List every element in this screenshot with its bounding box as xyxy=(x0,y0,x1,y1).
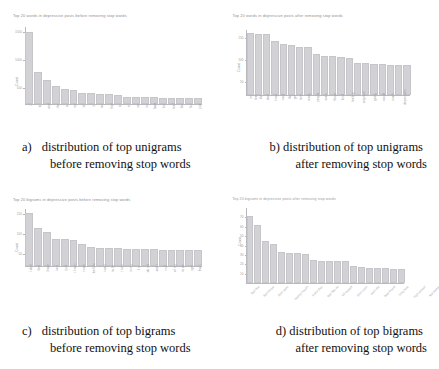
x-tick-label: going xyxy=(369,97,377,101)
y-tick-label: 150 xyxy=(232,36,244,40)
bar xyxy=(247,33,254,95)
bar xyxy=(61,239,69,266)
x-tick-label: like xyxy=(176,106,184,110)
chart-title: Top 20 bigrams in depressive posts after… xyxy=(233,197,336,201)
caption-marker: c) xyxy=(22,323,32,340)
x-tick-label: so xyxy=(132,106,140,110)
chart-title: Top 20 words in depressive posts before … xyxy=(13,13,127,18)
x-tick-label: to xyxy=(34,106,42,110)
x-tick-labels: feel likedont knowdont wantmental health… xyxy=(247,285,405,289)
bar xyxy=(278,252,285,283)
bar xyxy=(280,44,287,95)
bar xyxy=(43,232,51,266)
x-tick-label: to do xyxy=(177,268,185,272)
caption-marker: d) xyxy=(276,324,286,338)
caption-text-line1: distribution of top bigrams xyxy=(42,323,176,340)
x-tick-label: a xyxy=(61,106,69,110)
bar xyxy=(262,241,269,283)
x-tick-label: anymore xyxy=(356,97,368,101)
caption-marker: a) xyxy=(22,139,32,156)
x-tick-label: me xyxy=(96,106,104,110)
x-tick-label: things xyxy=(329,97,337,101)
bar xyxy=(70,240,78,266)
bar xyxy=(270,244,277,283)
bar xyxy=(247,216,254,284)
y-axis-label: Count xyxy=(237,63,241,72)
bar xyxy=(52,86,60,104)
caption-text-line2: after removing stop words xyxy=(295,340,433,357)
bar xyxy=(379,64,386,95)
bar xyxy=(310,260,317,283)
bar xyxy=(25,32,33,104)
x-tick-label: i was xyxy=(116,268,124,272)
x-tick-label: dont xyxy=(263,97,269,101)
y-axis-label: Count xyxy=(15,243,19,252)
x-tick-label: i know xyxy=(69,268,78,272)
x-tick-label: like xyxy=(257,97,262,101)
x-tick-label: mental health xyxy=(288,285,307,289)
x-tick-label: would xyxy=(378,97,386,101)
bar xyxy=(159,250,167,266)
caption-marker: b) xyxy=(270,140,280,154)
caption-text-line2: after removing stop words xyxy=(295,156,433,173)
bar xyxy=(318,261,325,284)
bar xyxy=(382,268,389,283)
bar xyxy=(326,261,333,284)
bar xyxy=(61,89,69,104)
chart-panel-unigrams-after: Top 20 words in depressive posts after r… xyxy=(220,0,439,139)
bar xyxy=(52,239,60,266)
x-tick-label: want xyxy=(278,97,285,101)
x-tick-label: it xyxy=(87,106,95,110)
bar xyxy=(321,56,328,95)
bar xyxy=(105,248,113,266)
x-tick-label: that i xyxy=(194,268,202,272)
bars-container xyxy=(25,27,202,104)
x-tick-label: feeling xyxy=(346,97,355,101)
bar xyxy=(334,261,341,283)
y-tick-label: 30 xyxy=(232,253,244,257)
bar xyxy=(70,90,78,104)
x-tick-label: think xyxy=(338,97,345,101)
chart-panel-bigrams-after: Top 20 bigrams in depressive posts after… xyxy=(220,184,439,323)
y-tick-label: 500 xyxy=(10,86,22,90)
x-tick-label: i get xyxy=(186,268,194,272)
x-tick-label: of my xyxy=(169,268,177,272)
x-tick-label: in my xyxy=(125,268,133,272)
bar xyxy=(185,98,193,104)
x-tick-label: do not xyxy=(142,268,151,272)
chart-panel-bigrams-before: Top 20 bigrams in depressive posts befor… xyxy=(0,184,220,323)
bars-container xyxy=(247,208,405,283)
bar xyxy=(370,64,377,95)
caption-text-line1: distribution of top unigrams xyxy=(283,140,423,154)
caption-a: a) distribution of top unigrams before r… xyxy=(0,139,220,184)
x-tick-label: i feel xyxy=(34,268,42,272)
y-tick-label: 60 xyxy=(232,225,244,229)
x-tick-labels: i donti feeli havei ami justi knowi want… xyxy=(25,268,202,272)
x-tick-label: i want xyxy=(78,268,86,272)
caption-text-line2: before removing stop words xyxy=(6,156,214,173)
bar xyxy=(78,244,86,266)
bar xyxy=(302,254,309,283)
x-tick-label: that xyxy=(105,106,113,110)
caption-text-line1: distribution of top bigrams xyxy=(289,324,423,338)
x-tick-label: much xyxy=(387,97,395,101)
bar xyxy=(132,249,140,266)
y-tick-label: 20 xyxy=(232,262,244,266)
x-tick-label: know xyxy=(270,97,277,101)
bar xyxy=(374,268,381,283)
x-tick-label: even xyxy=(321,97,328,101)
bar xyxy=(114,248,122,266)
x-tick-labels: itoandtheamyofitmethatisinsoimhavebutfee… xyxy=(25,106,202,110)
x-tick-label: depression xyxy=(395,97,410,101)
x-tick-labels: imfeellikedontknowwantlifegettimereallyp… xyxy=(247,97,411,101)
caption-text-line1: distribution of top unigrams xyxy=(42,139,182,156)
bar xyxy=(294,253,301,283)
x-tick-label: i xyxy=(25,106,33,110)
bar xyxy=(288,45,295,95)
x-tick-label: in xyxy=(123,106,131,110)
x-tick-label: dont want xyxy=(273,285,286,289)
caption-d: d) distribution of top bigrams after rem… xyxy=(220,323,439,369)
bar xyxy=(387,65,394,95)
bar xyxy=(96,94,104,104)
bar xyxy=(358,267,365,283)
